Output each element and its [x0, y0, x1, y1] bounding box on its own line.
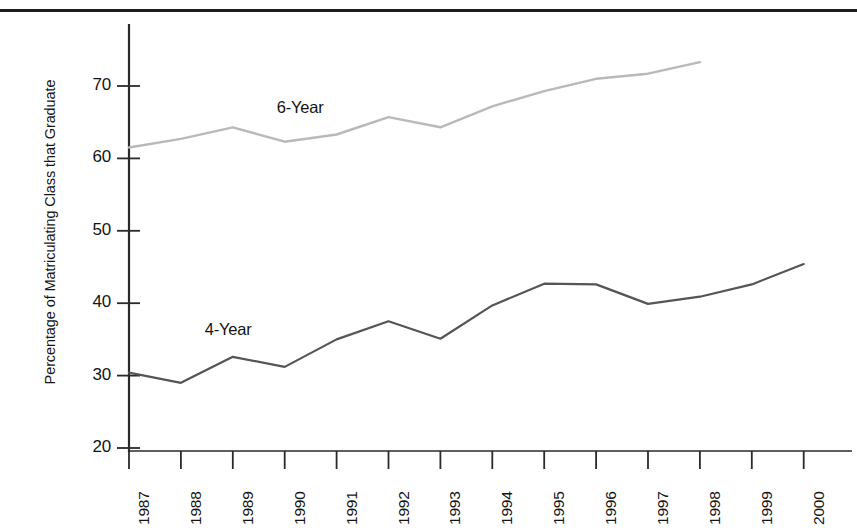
x-tick-label: 1994	[498, 491, 516, 525]
chart-plot-area	[0, 0, 857, 530]
x-tick-label: 1997	[654, 491, 672, 525]
y-tick-label: 30	[65, 365, 111, 385]
y-tick-label: 20	[65, 437, 111, 457]
series-label-4-year: 4-Year	[205, 320, 252, 339]
x-tick-label: 1987	[135, 491, 153, 525]
y-tick-label: 40	[65, 292, 111, 312]
x-tick-label: 1993	[446, 491, 464, 525]
x-tick-label: 1995	[550, 491, 568, 525]
x-tick-label: 1999	[758, 491, 776, 525]
x-tick-label: 1996	[602, 491, 620, 525]
x-tick-label: 1990	[291, 491, 309, 525]
y-tick-label: 50	[65, 220, 111, 240]
x-tick-label: 1998	[706, 491, 724, 525]
x-tick-label: 1988	[187, 491, 205, 525]
x-tick-label: 2000	[810, 491, 828, 525]
series-line-6-year	[129, 62, 700, 147]
x-tick-label: 1992	[395, 491, 413, 525]
y-tick-label: 70	[65, 75, 111, 95]
y-tick-label: 60	[65, 147, 111, 167]
x-tick-label: 1991	[343, 491, 361, 525]
x-axis-ticks	[129, 451, 804, 469]
chart-figure: Percentage of Matriculating Class that G…	[0, 0, 857, 530]
x-tick-label: 1989	[239, 491, 257, 525]
series-label-6-year: 6-Year	[277, 98, 324, 117]
